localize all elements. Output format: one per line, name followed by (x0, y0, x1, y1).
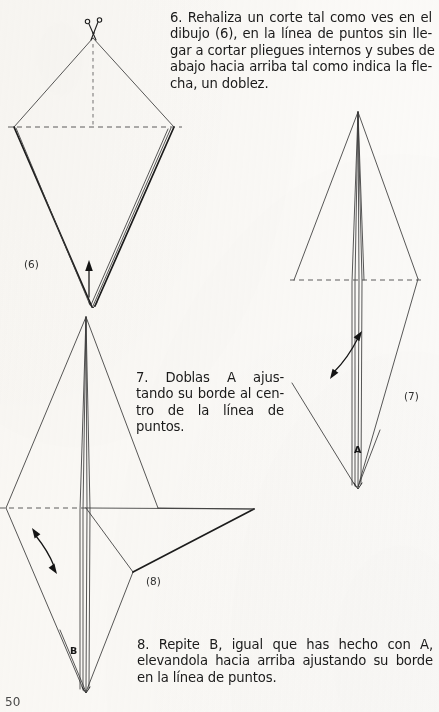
text-line: puntos. (136, 419, 284, 435)
page-number: 50 (5, 695, 20, 712)
text-line: tro de la línea de (136, 403, 284, 419)
text-line: gar a cortar pliegues internos y subes d… (170, 43, 432, 59)
figure-label-7: (7) (404, 390, 419, 402)
figure-label-6: (6) (24, 258, 39, 270)
double-curved-arrow-icon (32, 528, 57, 574)
double-curved-arrow-icon (330, 331, 362, 379)
figure-7-diagram (296, 100, 439, 500)
text-line: en la línea de puntos. (137, 670, 433, 686)
instruction-text-step-8: 8. Repite B, igual que has hecho con A, … (137, 637, 433, 686)
instruction-text-step-6: 6. Rehaliza un corte tal como ves en el … (170, 10, 432, 92)
document-page: 6. Rehaliza un corte tal como ves en el … (0, 0, 439, 712)
text-line: cha, un doblez. (170, 76, 432, 92)
text-line: abajo hacia arriba tal como indica la fl… (170, 59, 432, 75)
text-line: tando su borde al cen- (136, 386, 284, 402)
text-line: 7. Doblas A ajus- (136, 370, 284, 386)
figure-label-8: (8) (146, 575, 161, 587)
scissors-icon (85, 18, 101, 40)
text-line: elevandola hacia arriba ajustando su bor… (137, 653, 433, 669)
point-label-b: B (70, 645, 77, 656)
up-arrow-icon (85, 260, 93, 297)
text-line: 8. Repite B, igual que has hecho con A, (137, 637, 433, 653)
instruction-text-step-7: 7. Doblas A ajus- tando su borde al cen-… (136, 370, 284, 436)
point-label-a: A (354, 444, 361, 455)
text-line: 6. Rehaliza un corte tal como ves en el (170, 10, 432, 26)
text-line: dibujo (6), en la línea de puntos sin ll… (170, 26, 432, 42)
